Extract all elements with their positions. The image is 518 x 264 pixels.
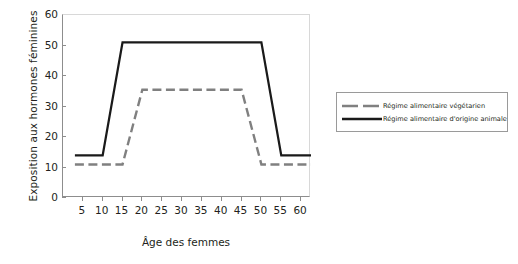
x-tick-mark (201, 197, 202, 201)
x-tick-mark (161, 197, 162, 201)
x-tick-mark (280, 197, 281, 201)
x-tick-mark (141, 197, 142, 201)
legend-item: Régime alimentaire d'origine animale (342, 112, 502, 125)
y-axis-tick-labels: 0102030405060 (10, 14, 58, 197)
series-line (75, 42, 311, 155)
x-tick-mark (221, 197, 222, 201)
y-tick-label: 0 (18, 192, 58, 203)
x-tick-mark (260, 197, 261, 201)
plot-area (62, 14, 310, 197)
y-tick-label: 10 (18, 162, 58, 173)
y-tick-label: 40 (18, 70, 58, 81)
y-tick-label: 20 (18, 131, 58, 142)
y-tick-label: 50 (18, 40, 58, 51)
series-layer (63, 15, 311, 198)
x-tick-mark (122, 197, 123, 201)
x-tick-mark (82, 197, 83, 201)
legend-swatch (342, 101, 382, 111)
chart-legend: Régime alimentaire végétarienRégime alim… (336, 92, 508, 132)
y-tick-label: 60 (18, 9, 58, 20)
x-tick-mark (181, 197, 182, 201)
legend-item: Régime alimentaire végétarien (342, 99, 502, 112)
x-tick-label: 60 (285, 205, 315, 216)
x-tick-mark (241, 197, 242, 201)
x-tick-mark (300, 197, 301, 201)
y-tick-label: 30 (18, 101, 58, 112)
chart-figure: Exposition aux hormones féminines 010203… (0, 0, 518, 264)
legend-label: Régime alimentaire d'origine animale (382, 115, 507, 123)
x-axis-title: Âge des femmes (62, 236, 310, 248)
legend-swatch (342, 114, 382, 124)
legend-label: Régime alimentaire végétarien (382, 102, 485, 110)
x-tick-mark (102, 197, 103, 201)
